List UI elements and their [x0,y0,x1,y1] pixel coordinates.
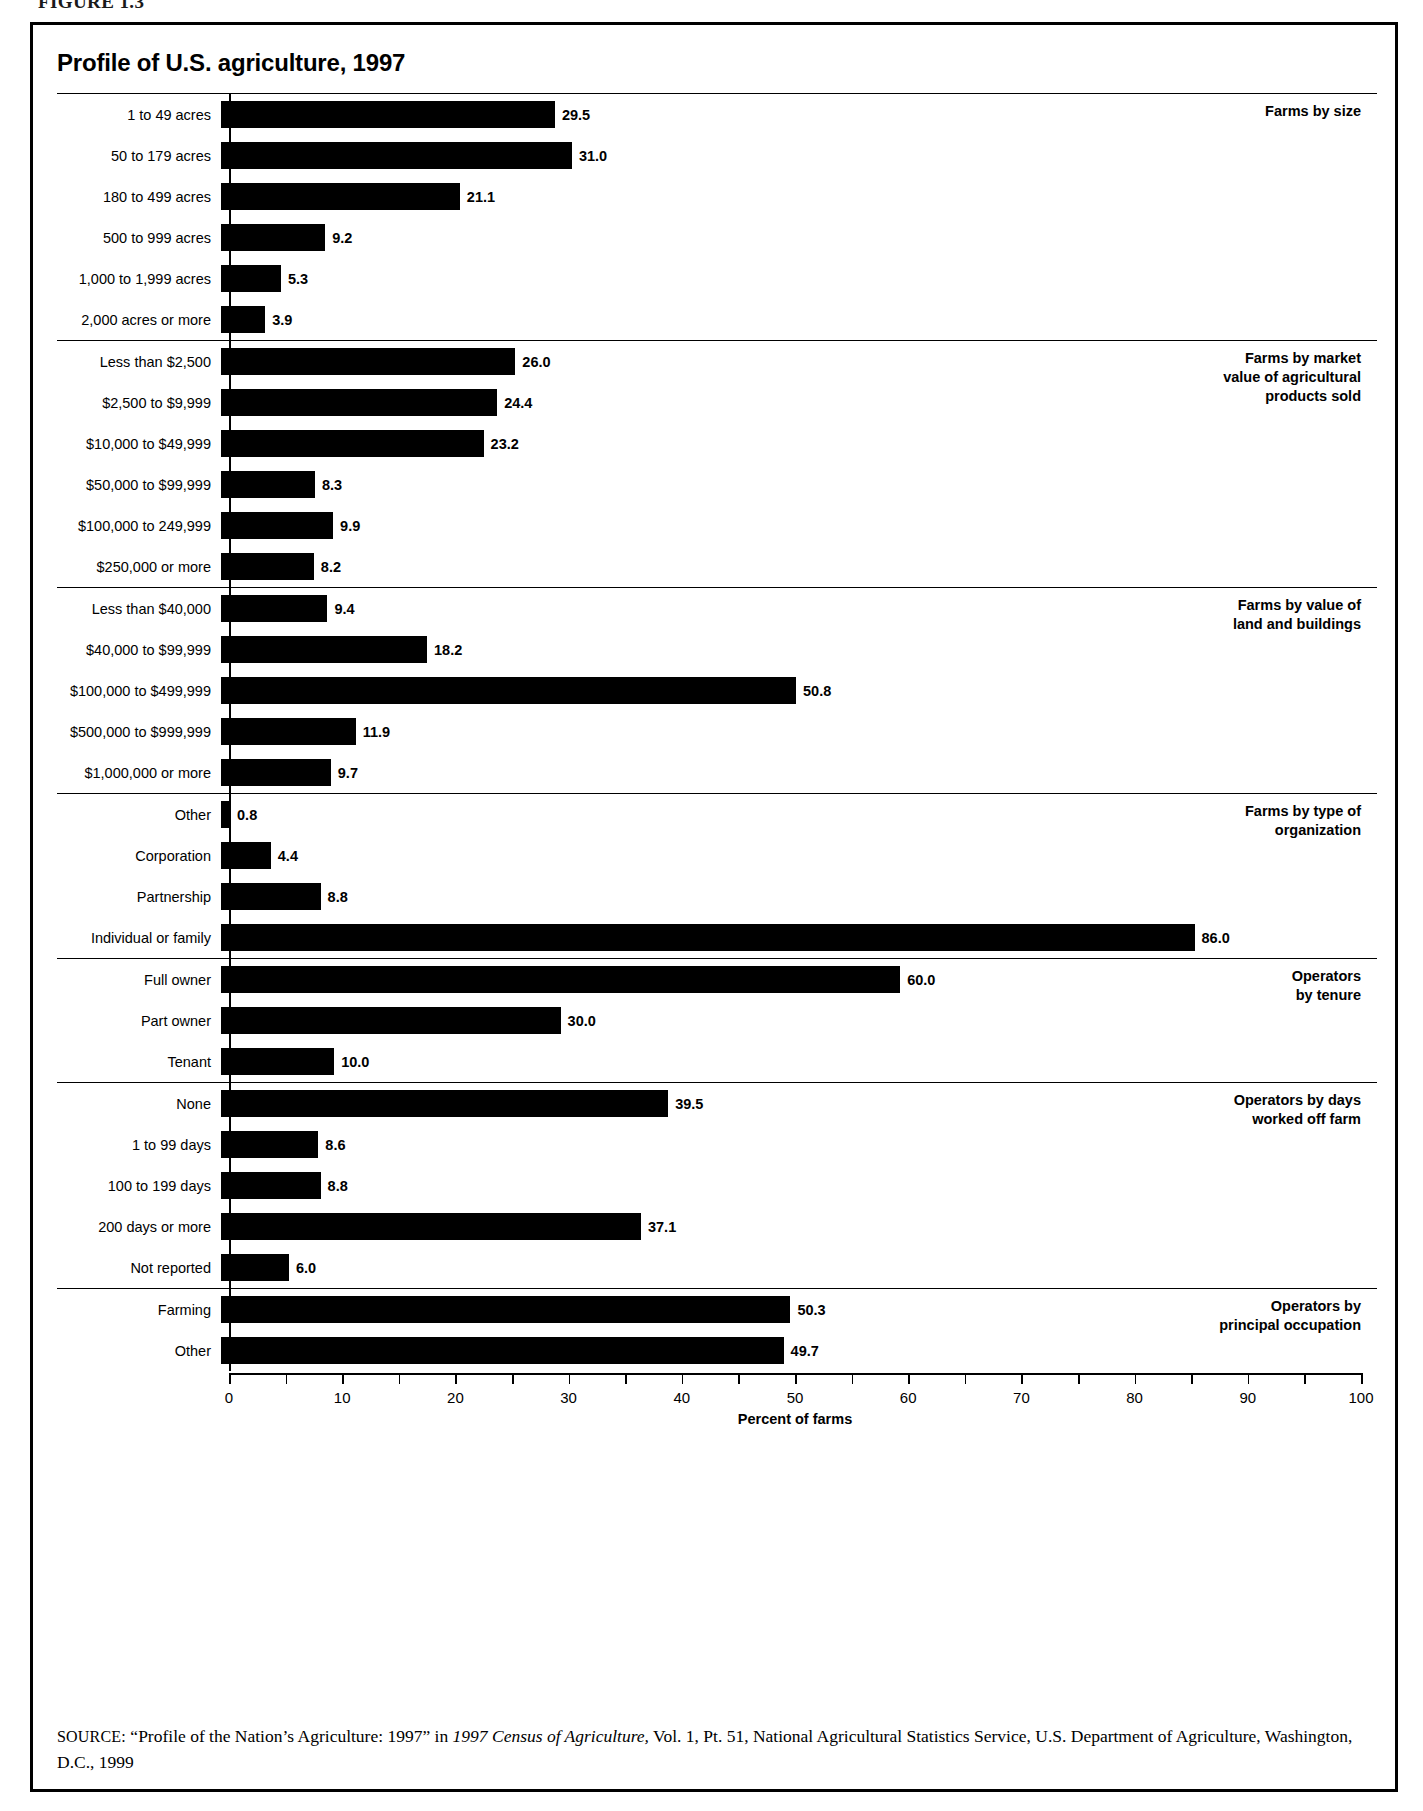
bar-value-label: 4.4 [278,848,298,864]
bar-row: Full owner60.0 [57,959,1377,1000]
bar-track: 24.4 [221,382,1377,423]
bar [221,1296,790,1323]
bar [221,842,271,869]
bar-group: Farms by size1 to 49 acres29.550 to 179 … [57,93,1377,341]
bar-value-label: 9.2 [332,230,352,246]
x-axis-major-tick [682,1373,684,1384]
bar-track: 10.0 [221,1041,1377,1082]
bar-category-label: Not reported [57,1260,221,1276]
bar-category-label: 200 days or more [57,1219,221,1235]
x-axis-tick-label: 60 [900,1389,917,1406]
bar [221,1090,668,1117]
bar [221,1337,784,1364]
bar-row: 2,000 acres or more3.9 [57,299,1377,340]
bar-group-rows: None39.51 to 99 days8.6100 to 199 days8.… [57,1083,1377,1288]
bar-group-heading: Farms by type of organization [1245,802,1361,840]
bar-row: 50 to 179 acres31.0 [57,135,1377,176]
x-axis-minor-tick [738,1373,740,1384]
bar-value-label: 50.8 [803,683,831,699]
bar-category-label: 500 to 999 acres [57,230,221,246]
bar-track: 39.5 [221,1083,1377,1124]
bar-category-label: Other [57,807,221,823]
bar-value-label: 8.8 [328,1178,348,1194]
x-axis-minor-tick [399,1373,401,1384]
bar [221,1254,289,1281]
bar-row: $250,000 or more8.2 [57,546,1377,587]
bar [221,101,555,128]
bar [221,1172,321,1199]
x-axis-tick-label: 50 [787,1389,804,1406]
bar-row: 1 to 99 days8.6 [57,1124,1377,1165]
source-note: SOURCE: “Profile of the Nation’s Agricul… [57,1724,1375,1775]
bar-track: 6.0 [221,1247,1377,1288]
figure-number: FIGURE 1.3 [38,0,144,13]
x-axis-title: Percent of farms [229,1411,1361,1427]
bar-value-label: 8.6 [325,1137,345,1153]
chart-plot-region: Farms by size1 to 49 acres29.550 to 179 … [57,93,1377,1789]
bar-category-label: $100,000 to $499,999 [57,683,221,699]
bar-row: Tenant10.0 [57,1041,1377,1082]
bar-track: 21.1 [221,176,1377,217]
bar-row: 500 to 999 acres9.2 [57,217,1377,258]
bar-category-label: $1,000,000 or more [57,765,221,781]
bar-group: Operators by tenureFull owner60.0Part ow… [57,959,1377,1083]
bar-category-label: $50,000 to $99,999 [57,477,221,493]
bar-category-label: 1,000 to 1,999 acres [57,271,221,287]
bar [221,224,325,251]
bar-category-label: Full owner [57,972,221,988]
bar-group-rows: 1 to 49 acres29.550 to 179 acres31.0180 … [57,94,1377,340]
bar-category-label: $500,000 to $999,999 [57,724,221,740]
bar-group: Operators by principal occupationFarming… [57,1289,1377,1371]
bar-group-rows: Farming50.3Other49.7 [57,1289,1377,1371]
bar-value-label: 9.9 [340,518,360,534]
bar [221,389,497,416]
bar-track: 4.4 [221,835,1377,876]
bar-category-label: 100 to 199 days [57,1178,221,1194]
bar [221,966,900,993]
bar-group-rows: Less than $2,50026.0$2,500 to $9,99924.4… [57,341,1377,587]
bar-track: 0.8 [221,794,1377,835]
x-axis-minor-tick [852,1373,854,1384]
bar-groups-container: Farms by size1 to 49 acres29.550 to 179 … [57,93,1377,1371]
bar-category-label: 180 to 499 acres [57,189,221,205]
x-axis-tick-label: 20 [447,1389,464,1406]
bar [221,265,281,292]
x-axis-minor-tick [1191,1373,1193,1384]
bar-row: $1,000,000 or more9.7 [57,752,1377,793]
bar-group-heading: Operators by tenure [1292,967,1361,1005]
bar-track: 37.1 [221,1206,1377,1247]
figure-frame: Profile of U.S. agriculture, 1997 Farms … [30,22,1398,1792]
bar-category-label: Less than $2,500 [57,354,221,370]
x-axis-tick-label: 10 [334,1389,351,1406]
bar-row: Other0.8 [57,794,1377,835]
bar-track: 9.4 [221,588,1377,629]
x-axis-major-tick [229,1373,231,1384]
bar-value-label: 30.0 [568,1013,596,1029]
bar-value-label: 9.7 [338,765,358,781]
bar-category-label: None [57,1096,221,1112]
bar-category-label: 2,000 acres or more [57,312,221,328]
x-axis-minor-tick [625,1373,627,1384]
bar-category-label: Corporation [57,848,221,864]
bar-row: $2,500 to $9,99924.4 [57,382,1377,423]
bar [221,677,796,704]
bar-row: Less than $2,50026.0 [57,341,1377,382]
bar-track: 8.6 [221,1124,1377,1165]
bar-track: 50.8 [221,670,1377,711]
bar-track: 8.8 [221,876,1377,917]
bar-value-label: 39.5 [675,1096,703,1112]
bar-value-label: 11.9 [363,724,390,740]
bar-row: 1 to 49 acres29.5 [57,94,1377,135]
bar [221,348,515,375]
bar-value-label: 50.3 [797,1302,825,1318]
bar-row: $500,000 to $999,99911.9 [57,711,1377,752]
bar-group-heading: Operators by principal occupation [1219,1297,1361,1335]
bar-track: 18.2 [221,629,1377,670]
bar-row: Not reported6.0 [57,1247,1377,1288]
x-axis-major-tick [1248,1373,1250,1384]
x-axis-minor-tick [1304,1373,1306,1384]
x-axis-major-tick [1135,1373,1137,1384]
bar-track: 31.0 [221,135,1377,176]
bar-value-label: 23.2 [491,436,519,452]
bar-value-label: 21.1 [467,189,495,205]
